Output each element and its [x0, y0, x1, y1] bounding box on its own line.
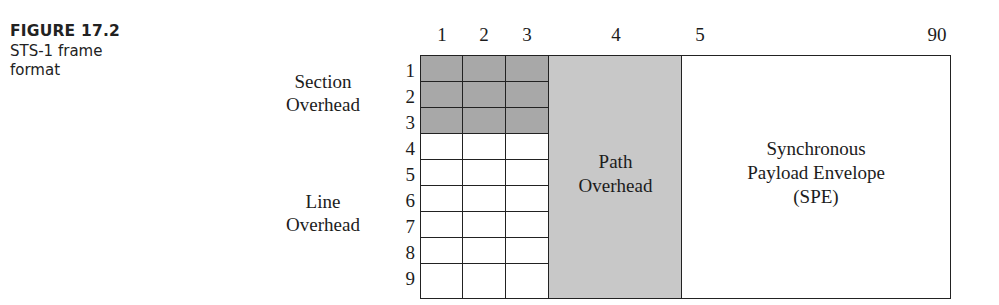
- line-overhead-cell: [462, 211, 507, 239]
- section-overhead-cell: [505, 81, 550, 109]
- line-overhead-cell: [505, 185, 550, 213]
- line-overhead-cell: [505, 263, 550, 299]
- section-overhead-cell: [505, 107, 550, 135]
- section-overhead-label-line1: Section: [268, 70, 378, 93]
- figure-label: FIGURE 17.2: [10, 22, 120, 40]
- figure-caption: FIGURE 17.2 STS-1 frame format: [10, 22, 120, 80]
- line-overhead-cell: [505, 211, 550, 239]
- line-overhead-cell: [420, 237, 464, 265]
- line-overhead-cell: [462, 185, 507, 213]
- row-label-9: 9: [395, 268, 415, 290]
- row-label-7: 7: [395, 216, 415, 238]
- section-overhead-cell: [420, 55, 464, 83]
- line-overhead-cell: [505, 159, 550, 187]
- line-overhead-cell: [420, 211, 464, 239]
- line-overhead-cell: [505, 133, 550, 161]
- column-label-3: 3: [507, 24, 547, 46]
- row-label-5: 5: [395, 164, 415, 186]
- line-overhead-cell: [420, 159, 464, 187]
- line-overhead-cell: [462, 237, 507, 265]
- line-overhead-cell: [420, 263, 464, 299]
- line-overhead-label: Line Overhead: [268, 190, 378, 236]
- spe-label-line2: Payload Envelope: [681, 161, 951, 185]
- line-overhead-cell: [462, 263, 507, 299]
- row-label-8: 8: [395, 242, 415, 264]
- figure-description: STS-1 frame format: [10, 42, 120, 80]
- row-label-6: 6: [395, 190, 415, 212]
- spe-label-line3: (SPE): [681, 185, 951, 209]
- section-overhead-cell: [420, 81, 464, 109]
- row-label-1: 1: [395, 60, 415, 82]
- column-label-5: 5: [680, 24, 720, 46]
- spe-label-line1: Synchronous: [681, 137, 951, 161]
- section-overhead-cell: [462, 81, 507, 109]
- spe-label: Synchronous Payload Envelope (SPE): [681, 137, 951, 209]
- section-overhead-label-line2: Overhead: [268, 93, 378, 116]
- row-label-4: 4: [395, 138, 415, 160]
- line-overhead-cell: [462, 159, 507, 187]
- section-overhead-cell: [462, 107, 507, 135]
- line-overhead-cell: [420, 185, 464, 213]
- column-label-4: 4: [596, 24, 636, 46]
- column-label-90: 90: [917, 24, 957, 46]
- line-overhead-label-line1: Line: [268, 190, 378, 213]
- line-overhead-cell: [420, 133, 464, 161]
- path-overhead-label: Path Overhead: [548, 150, 683, 198]
- column-label-2: 2: [464, 24, 504, 46]
- section-overhead-cell: [462, 55, 507, 83]
- row-label-2: 2: [395, 86, 415, 108]
- line-overhead-cell: [462, 133, 507, 161]
- section-overhead-cell: [420, 107, 464, 135]
- section-overhead-cell: [505, 55, 550, 83]
- section-overhead-label: Section Overhead: [268, 70, 378, 116]
- line-overhead-cell: [505, 237, 550, 265]
- column-label-1: 1: [422, 24, 462, 46]
- path-overhead-label-line1: Path: [548, 150, 683, 174]
- line-overhead-label-line2: Overhead: [268, 213, 378, 236]
- path-overhead-label-line2: Overhead: [548, 174, 683, 198]
- row-label-3: 3: [395, 112, 415, 134]
